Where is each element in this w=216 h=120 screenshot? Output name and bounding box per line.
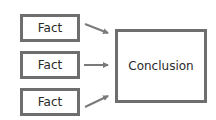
fact-box-2: Fact [20,51,80,79]
conclusion-label: Conclusion [128,59,193,73]
fact-label: Fact [38,58,62,72]
conclusion-box: Conclusion [115,29,207,103]
diagram-canvas: Fact Fact Fact Conclusion [0,0,216,120]
fact-label: Fact [38,95,62,109]
fact-box-3: Fact [20,88,80,116]
fact-box-1: Fact [20,14,80,42]
arrow-bottom-icon [85,96,108,107]
arrow-top-icon [85,24,108,33]
fact-label: Fact [38,21,62,35]
